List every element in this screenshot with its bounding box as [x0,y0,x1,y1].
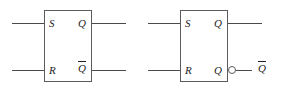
sr-latch-right-label-s-glyph: S [185,18,191,29]
diagram-canvas: S R Q Q S R Q Q [0,0,281,93]
sr-latch-right-figure: S R Q Q Q [0,0,281,93]
sr-latch-right-label-r: R [185,65,192,76]
sr-latch-right-label-q-lower-glyph: Q [214,65,222,76]
sr-latch-right-output-q-wire [228,23,262,24]
sr-latch-right-label-q: Q [214,18,222,29]
sr-latch-right-external-label-qbar: Q [258,61,266,74]
sr-latch-right-input-s-wire [148,23,180,24]
sr-latch-right-inversion-bubble-icon [228,66,236,74]
sr-latch-right-label-r-glyph: R [185,65,192,76]
sr-latch-right-label-q-glyph: Q [214,18,222,29]
sr-latch-right-external-label-qbar-glyph: Q [258,63,266,74]
sr-latch-right-input-r-wire [148,70,180,71]
sr-latch-right-label-s: S [185,18,191,29]
sr-latch-right-output-qbar-wire [236,70,252,71]
sr-latch-right-label-q-lower: Q [214,65,222,76]
